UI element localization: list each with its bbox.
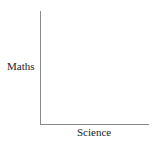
x-axis-label: Science [77, 126, 111, 139]
y-axis-label: Maths [7, 60, 35, 73]
x-axis-line [40, 124, 149, 125]
chart-area: Maths Science [0, 0, 158, 147]
y-axis-line [40, 11, 41, 125]
